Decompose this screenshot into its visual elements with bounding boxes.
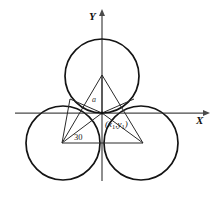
point-coordinates-label: (x1,y1)	[105, 120, 128, 129]
coords-subscript-2: 1	[122, 123, 125, 130]
figure-canvas	[0, 0, 217, 203]
x-axis-label: X	[196, 115, 203, 126]
common-point-marker	[100, 111, 103, 114]
y-axis-arrow-icon	[99, 9, 105, 16]
angle-label-30: 30	[74, 133, 83, 142]
geometry-figure: Y X a 30 (x1,y1)	[0, 0, 217, 203]
side-length-label-a: a	[92, 96, 96, 104]
coords-subscript-1: 1	[112, 123, 115, 130]
coords-close-paren: )	[125, 119, 128, 129]
x-axis-arrow-icon	[203, 110, 210, 116]
coords-comma-y: ,y	[115, 119, 121, 129]
ray-origin-to-left-intersection	[70, 99, 102, 113]
y-axis-label: Y	[89, 11, 96, 22]
axes-group	[15, 9, 210, 181]
coords-open-paren: (x	[105, 119, 112, 129]
